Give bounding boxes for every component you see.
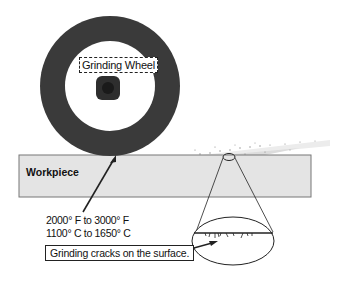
wheel-hub-center	[102, 82, 114, 94]
temperature-fahrenheit: 2000° F to 3000° F	[46, 214, 129, 226]
grinding-diagram	[0, 0, 337, 285]
temperature-celsius: 1100° C to 1650° C	[46, 227, 131, 239]
magnified-view	[192, 217, 274, 265]
grinding-wheel-label: Grinding Wheel	[79, 57, 158, 73]
workpiece-label: Workpiece	[26, 166, 79, 178]
grinding-cracks-label: Grinding cracks on the surface.	[45, 245, 194, 261]
